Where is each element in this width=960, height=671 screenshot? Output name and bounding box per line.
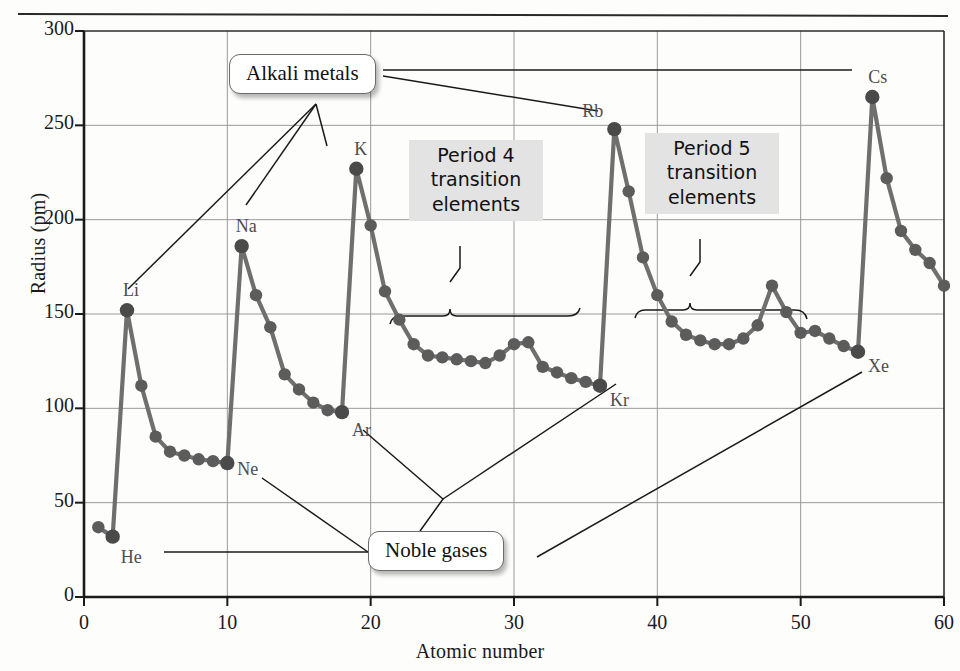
point-label-rb: Rb	[582, 101, 603, 122]
point-label-k: K	[354, 139, 367, 160]
tick-marks	[75, 31, 944, 606]
point-label-cs: Cs	[868, 67, 887, 88]
xtick-30: 30	[489, 611, 539, 634]
xtick-60: 60	[919, 611, 960, 634]
callout-alkali-metals: Alkali metals	[229, 54, 376, 94]
xtick-40: 40	[632, 611, 682, 634]
figure-container: 0 50 100 150 200 250 300 0 10 20 30 40 5…	[0, 0, 960, 671]
callout-noble-gases: Noble gases	[368, 531, 504, 571]
xtick-20: 20	[346, 611, 396, 634]
annotation-period-4-transition-elements: Period 4 transition elements	[409, 140, 543, 221]
point-label-xe: Xe	[868, 356, 889, 377]
point-label-ar: Ar	[352, 420, 371, 441]
grid-layer	[84, 31, 944, 597]
ytick-50: 50	[14, 489, 74, 512]
xtick-10: 10	[202, 611, 252, 634]
annotation-period-5-transition-elements: Period 5 transition elements	[645, 133, 779, 214]
point-label-he: He	[121, 547, 142, 568]
ytick-100: 100	[14, 394, 74, 417]
point-label-kr: Kr	[610, 390, 629, 411]
x-axis-label: Atomic number	[0, 640, 960, 663]
xtick-0: 0	[59, 611, 109, 634]
point-label-ne: Ne	[237, 459, 258, 480]
ytick-250: 250	[14, 111, 74, 134]
point-label-na: Na	[236, 216, 257, 237]
xtick-50: 50	[776, 611, 826, 634]
y-axis-label: Radius (pm)	[27, 154, 50, 334]
ytick-300: 300	[14, 17, 74, 40]
point-label-li: Li	[123, 280, 139, 301]
ytick-0: 0	[14, 583, 74, 606]
